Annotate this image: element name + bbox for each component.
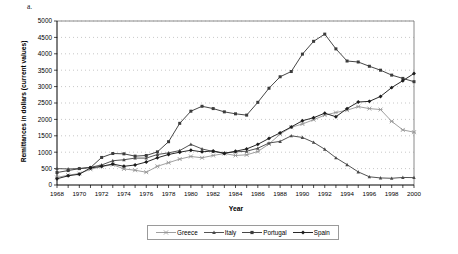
svg-text:1998: 1998	[385, 190, 399, 197]
legend-label: Portugal	[263, 229, 286, 236]
legend-swatch-diamond-icon	[293, 228, 313, 237]
svg-text:4500: 4500	[38, 34, 53, 41]
svg-text:1992: 1992	[318, 190, 332, 197]
svg-text:1980: 1980	[184, 190, 198, 197]
legend-label: Greece	[177, 229, 198, 236]
svg-text:1972: 1972	[95, 190, 109, 197]
svg-text:1994: 1994	[340, 190, 354, 197]
legend-item-italy: Italy	[204, 228, 237, 237]
x-axis-title: Year	[57, 205, 415, 212]
svg-text:3500: 3500	[38, 67, 53, 74]
series-spain	[55, 72, 416, 181]
legend-swatch-star-x-icon	[156, 228, 176, 237]
chart-legend: GreeceItalyPortugalSpain	[147, 225, 339, 240]
svg-text:0: 0	[48, 181, 52, 188]
svg-text:5000: 5000	[38, 17, 53, 24]
svg-text:500: 500	[41, 165, 52, 172]
series-italy	[55, 134, 415, 180]
legend-item-greece: Greece	[156, 228, 198, 237]
svg-text:1996: 1996	[362, 190, 376, 197]
svg-text:2500: 2500	[38, 99, 53, 106]
svg-text:1978: 1978	[162, 190, 176, 197]
svg-text:1976: 1976	[139, 190, 153, 197]
svg-text:1970: 1970	[72, 190, 86, 197]
svg-text:3000: 3000	[38, 83, 53, 90]
svg-text:1000: 1000	[38, 149, 53, 156]
svg-text:1988: 1988	[273, 190, 287, 197]
svg-text:1968: 1968	[50, 190, 64, 197]
svg-text:2000: 2000	[38, 116, 53, 123]
svg-text:1990: 1990	[296, 190, 310, 197]
legend-label: Italy	[225, 229, 237, 236]
legend-label: Spain	[314, 229, 330, 236]
legend-swatch-triangle-icon	[204, 228, 224, 237]
svg-text:1984: 1984	[229, 190, 243, 197]
legend-item-spain: Spain	[293, 228, 330, 237]
series-greece	[55, 105, 416, 180]
svg-text:2000: 2000	[407, 190, 421, 197]
svg-text:1986: 1986	[251, 190, 265, 197]
legend-swatch-square-icon	[242, 228, 262, 237]
svg-text:1500: 1500	[38, 132, 53, 139]
svg-text:1974: 1974	[117, 190, 131, 197]
svg-text:1982: 1982	[206, 190, 220, 197]
figure-container: a. Remittances in dollars (current value…	[0, 0, 458, 254]
legend-item-portugal: Portugal	[242, 228, 286, 237]
svg-text:4000: 4000	[38, 50, 53, 57]
line-chart-plot: 0500100015002000250030003500400045005000…	[0, 0, 458, 254]
